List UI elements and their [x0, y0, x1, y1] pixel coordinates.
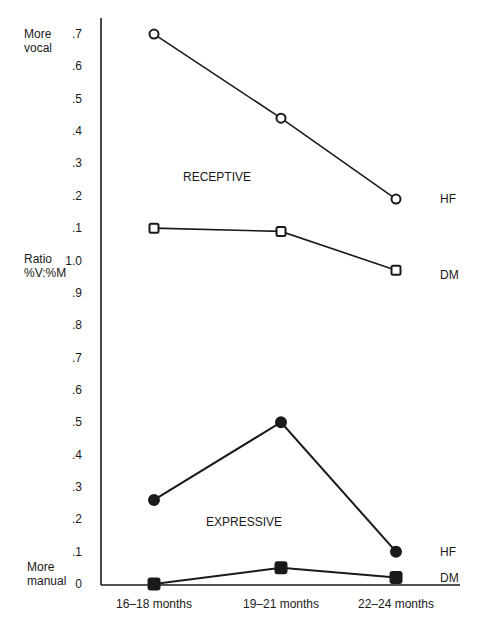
open-circle-marker [392, 195, 401, 204]
series-end-label: HF [440, 192, 456, 206]
x-category-label: 19–21 months [226, 597, 336, 611]
y-tick-label: .4 [52, 448, 82, 462]
y-tick-label: .8 [52, 318, 82, 332]
series-line [154, 228, 396, 270]
series-end-label: DM [440, 268, 459, 282]
y-tick-label: .2 [52, 512, 82, 526]
y-tick-label: .3 [52, 480, 82, 494]
expressive-annotation: EXPRESSIVE [206, 515, 282, 529]
filled-square-marker [149, 579, 160, 590]
y-tick-label: .9 [52, 286, 82, 300]
x-category-label: 22–24 months [341, 597, 451, 611]
y-tick-label: .3 [52, 156, 82, 170]
y-tick-label: .7 [52, 27, 82, 41]
filled-circle-marker [149, 495, 159, 505]
filled-circle-marker [276, 417, 286, 427]
y-tick-label: .5 [52, 415, 82, 429]
open-square-marker [277, 227, 286, 236]
y-axis-title: Ratio %V:%M [24, 252, 66, 280]
more-manual-label: More manual [27, 560, 66, 588]
y-tick-label: .1 [52, 545, 82, 559]
x-category-label: 16–18 months [99, 597, 209, 611]
y-tick-label: .1 [52, 221, 82, 235]
filled-square-marker [276, 562, 287, 573]
open-square-marker [392, 266, 401, 275]
series-end-label: DM [440, 571, 459, 585]
open-square-marker [150, 224, 159, 233]
series-layer [149, 30, 402, 590]
y-tick-label: .6 [52, 383, 82, 397]
filled-circle-marker [391, 547, 401, 557]
y-tick-label: .6 [52, 59, 82, 73]
series-line [154, 422, 396, 551]
y-tick-label: .4 [52, 124, 82, 138]
filled-square-marker [391, 572, 402, 583]
series-end-label: HF [440, 545, 456, 559]
receptive-annotation: RECEPTIVE [183, 170, 251, 184]
open-circle-marker [150, 30, 159, 39]
open-circle-marker [277, 114, 286, 123]
y-tick-label: .2 [52, 189, 82, 203]
y-tick-label: .7 [52, 351, 82, 365]
more-vocal-label: More vocal [24, 27, 52, 55]
y-tick-label: .5 [52, 92, 82, 106]
